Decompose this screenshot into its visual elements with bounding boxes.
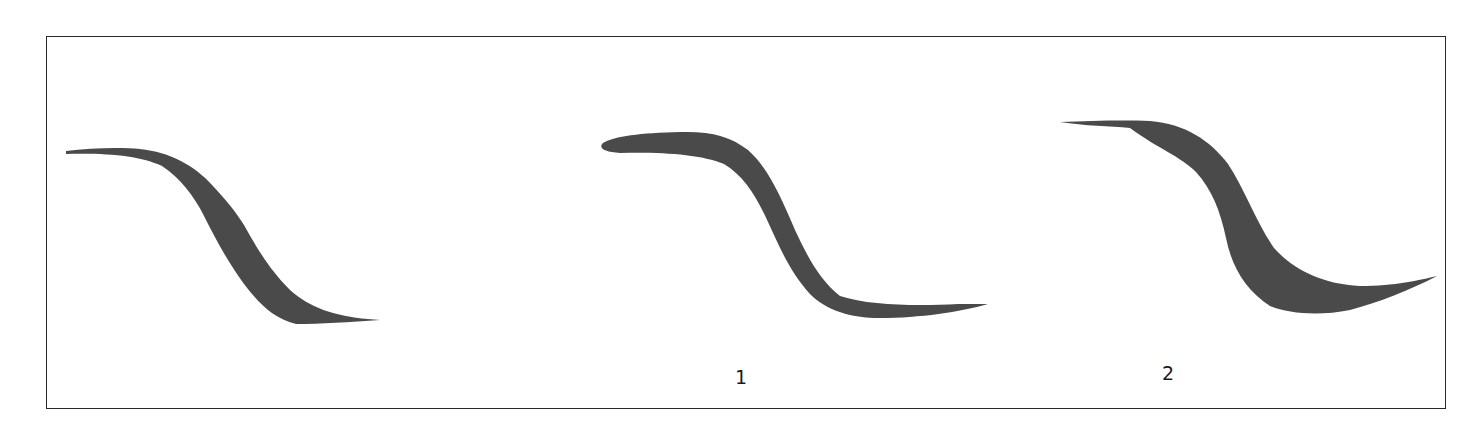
brush-stroke-1 <box>601 132 988 318</box>
panel-label-1: 1 <box>735 368 747 387</box>
brush-stroke-2 <box>1060 121 1437 314</box>
brush-strokes <box>0 0 1472 421</box>
brush-stroke-0 <box>66 148 380 324</box>
panel-label-2: 2 <box>1162 364 1174 383</box>
